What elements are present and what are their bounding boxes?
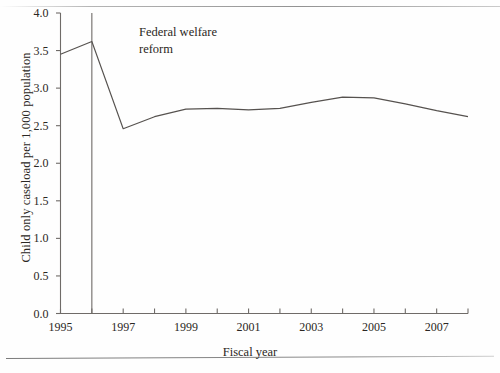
federal-welfare-reform-annotation: Federal welfare reform <box>139 24 217 57</box>
x-axis-title: Fiscal year <box>0 345 500 360</box>
x-tick-label: 1995 <box>38 321 84 333</box>
x-tick-label: 2003 <box>288 321 334 333</box>
x-tick-label: 1997 <box>100 321 146 333</box>
y-tick-label: 4.0 <box>9 7 49 19</box>
x-axis-ticks <box>61 309 469 314</box>
x-tick-label: 1999 <box>163 321 209 333</box>
y-axis-ticks <box>56 13 61 314</box>
data-series-line <box>61 42 469 129</box>
y-tick-label: 0.0 <box>9 308 49 320</box>
chart-plot-svg <box>0 0 500 373</box>
y-axis-title: Child only caseload per 1,000 population <box>19 28 34 288</box>
x-tick-label: 2005 <box>351 321 397 333</box>
document-page: 0.00.51.01.52.02.53.03.54.0 199519971999… <box>0 0 500 373</box>
x-tick-label: 2001 <box>226 321 272 333</box>
line-chart: 0.00.51.01.52.02.53.03.54.0 199519971999… <box>0 0 500 373</box>
x-tick-label: 2007 <box>414 321 460 333</box>
